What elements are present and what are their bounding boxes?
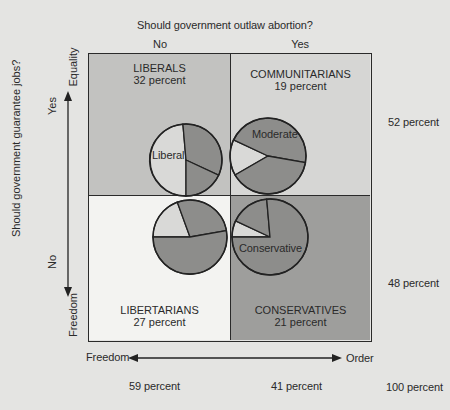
column-total-right: 41 percent (271, 380, 322, 392)
bottom-axis-left-end: Freedom (86, 351, 129, 363)
pie-label-liberal: Liberal (152, 149, 184, 161)
pie-conservative (232, 199, 308, 275)
row-total-top: 52 percent (388, 116, 439, 128)
column-total-left: 59 percent (129, 380, 180, 392)
pie-libertarian (153, 200, 227, 274)
pie-charts (0, 0, 450, 410)
pie-label-conservative: Conservative (239, 242, 302, 254)
row-total-bottom: 48 percent (388, 277, 439, 289)
column-total-grand: 100 percent (386, 381, 443, 393)
pie-label-moderate: Moderate (252, 128, 298, 140)
bottom-axis-right-end: Order (346, 352, 374, 364)
